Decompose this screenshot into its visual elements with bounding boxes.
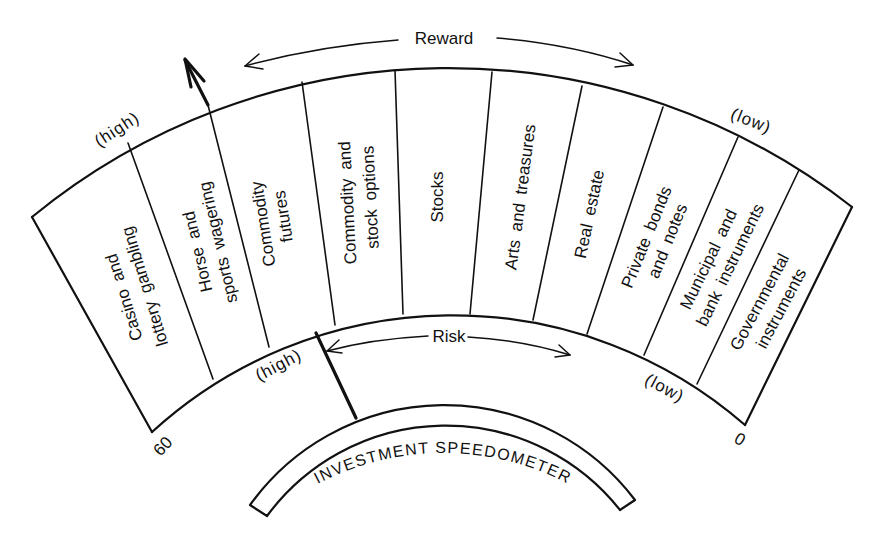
reward-label: Reward: [415, 29, 474, 48]
divider-4: [395, 70, 403, 314]
reward-arrow-right-shaft: [497, 38, 633, 65]
base-band: [250, 405, 635, 516]
category-private-bonds: Private bonds and notes: [618, 175, 699, 298]
category-commodity-futures: Commodity futures: [246, 168, 300, 268]
risk-arrow-right-shaft: [468, 337, 570, 355]
divider-3: [302, 82, 335, 325]
arrow-left-icon: [327, 340, 342, 353]
divider-5: [470, 72, 492, 314]
investment-speedometer-diagram: Casino and lottery gambling Horse and sp…: [0, 0, 884, 534]
risk-arrow-left-shaft: [327, 336, 428, 351]
category-casino-lottery: Casino and lottery gambling: [96, 224, 172, 355]
reward-low-label: (low): [728, 104, 774, 137]
risk-label: Risk: [432, 327, 466, 346]
needle-arrowhead-icon: [185, 59, 204, 87]
scale-max-label: 60: [150, 433, 177, 460]
reward-axis: Reward (high) (low): [91, 29, 774, 151]
category-arts-treasures: Arts and treasures: [501, 123, 539, 271]
risk-low-label: (low): [642, 370, 688, 406]
reward-arrow-left-shaft: [245, 40, 398, 66]
divider-6: [533, 86, 582, 320]
category-real-estate: Real estate: [571, 168, 608, 260]
category-stocks: Stocks: [428, 171, 447, 222]
scale-min-label: 0: [731, 429, 749, 450]
divider-9: [697, 170, 799, 384]
speedometer-base: INVESTMENT SPEEDOMETER: [250, 405, 635, 516]
category-commodity-stock-options: Commodity and stock options: [335, 131, 384, 265]
reward-high-label: (high): [91, 108, 143, 151]
